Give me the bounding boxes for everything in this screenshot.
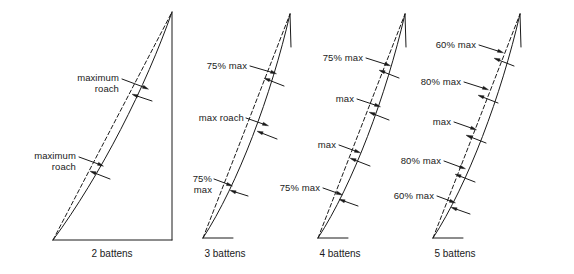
leech-chord-dashed [53, 12, 172, 240]
annotation-label-line: 60% max [424, 39, 476, 50]
annotation-label: maximumroach [14, 150, 76, 172]
pointer-arrow-dashed-0 [494, 58, 500, 62]
panel-caption: 2 battens [72, 248, 152, 259]
panel-2-battens [53, 12, 172, 240]
annotation-label: max [312, 139, 336, 150]
leader-arrow-solid-0 [142, 85, 148, 89]
pointer-arrow-dashed-4 [451, 207, 457, 211]
sail-head-stub [290, 14, 291, 47]
pointer-arrow-dashed-1 [478, 95, 484, 99]
annotation-label: 60% max [424, 39, 476, 50]
annotation-label-line: 75% max [268, 182, 320, 193]
annotation-label-line: maximum [14, 150, 76, 161]
leader-arrow-solid-2 [354, 149, 360, 153]
annotation-label: 80% max [389, 155, 441, 166]
panel-caption: 4 battens [300, 248, 380, 259]
panel-caption: 3 battens [185, 248, 265, 259]
pointer-arrow-dashed-2 [466, 135, 472, 139]
annotation-label-line: maximum [57, 72, 119, 83]
leader-arrow-solid-3 [336, 191, 342, 195]
sail-batten-diagram: maximumroachmaximumroach75% maxmax roach… [0, 0, 574, 274]
annotation-label-line: max roach [182, 112, 244, 123]
annotation-label-line: 75% max [311, 52, 363, 63]
pointer-arrow-dashed-1 [369, 112, 375, 116]
panel-3-battens [203, 14, 291, 238]
pointer-arrow-dashed-2 [230, 190, 236, 194]
pointer-arrow-dashed-0 [379, 70, 385, 74]
annotation-label-line: 80% max [409, 76, 461, 87]
annotation-label: max [330, 93, 354, 104]
annotation-label: max [427, 116, 451, 127]
annotation-label: 75% max [311, 52, 363, 63]
pointer-arrow-dashed-2 [350, 158, 356, 162]
annotation-label-line: max [330, 93, 354, 104]
diagram-canvas [0, 0, 574, 274]
leader-arrow-solid-0 [497, 49, 503, 53]
annotation-label: 75% max [195, 60, 247, 71]
annotation-label-line: max [427, 116, 451, 127]
pointer-arrow-dashed-3 [455, 174, 461, 178]
pointer-arrow-dashed-0 [132, 94, 138, 98]
leader-arrow-solid-1 [482, 86, 488, 90]
pointer-arrow-dashed-1 [257, 131, 263, 135]
annotation-label-line: roach [57, 83, 119, 94]
leader-arrow-solid-0 [270, 70, 276, 74]
annotation-label-line: max [312, 139, 336, 150]
annotation-label-line: roach [14, 161, 76, 172]
annotation-label-line: 80% max [389, 155, 441, 166]
annotation-label: 75% max [268, 182, 320, 193]
annotation-label-line: 75% max [195, 60, 247, 71]
annotation-label: maximumroach [57, 72, 119, 94]
sail-head-stub [520, 14, 521, 47]
leader-arrow-solid-3 [459, 165, 465, 169]
annotation-label: max roach [182, 112, 244, 123]
annotation-label-line: 75% [186, 173, 212, 184]
leader-arrow-solid-1 [262, 122, 268, 126]
pointer-arrow-dashed-0 [264, 78, 270, 82]
panel-caption: 5 battens [415, 248, 495, 259]
leader-arrow-solid-2 [470, 126, 476, 130]
pointer-arrow-dashed-1 [90, 171, 96, 175]
pointer-arrow-dashed-3 [339, 199, 345, 203]
sail-head-stub [405, 14, 406, 47]
leader-arrow-solid-0 [384, 62, 390, 66]
leader-line-0 [122, 79, 146, 88]
panel-4-battens [318, 14, 406, 238]
annotation-label: 60% max [382, 190, 434, 201]
leader-line-0 [250, 66, 274, 73]
leech-chord-dashed [203, 14, 290, 238]
leader-line-1 [79, 157, 101, 165]
annotation-label: 75%max [186, 173, 212, 195]
annotation-label-line: max [186, 184, 212, 195]
annotation-label-line: 60% max [382, 190, 434, 201]
leech-chord-dashed [318, 14, 405, 238]
annotation-label: 80% max [409, 76, 461, 87]
leader-arrow-solid-2 [226, 182, 232, 186]
